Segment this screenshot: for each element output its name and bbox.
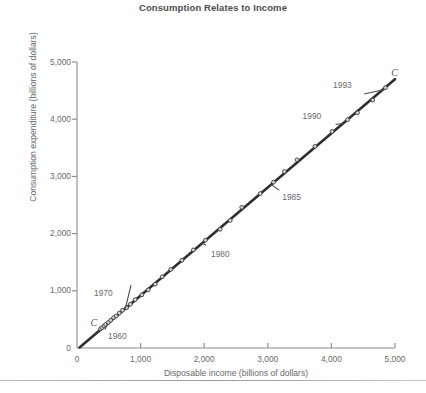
data-point-1973 [140, 293, 144, 297]
data-point-1980 [204, 238, 208, 242]
data-point-1985 [272, 180, 276, 184]
y-tick-label: 0 [66, 343, 71, 353]
y-tick-label: 3,000 [50, 171, 71, 181]
data-point-1977 [169, 267, 173, 271]
data-point-1978 [180, 258, 184, 262]
data-point-1976 [160, 275, 164, 279]
data-point-1972 [133, 298, 137, 302]
data-point-1987 [295, 158, 299, 162]
x-tick-label: 5,000 [375, 354, 415, 364]
data-point-1989 [330, 130, 334, 134]
page-bottom-rule [0, 380, 426, 381]
data-point-1982 [228, 219, 232, 223]
data-point-1969 [121, 308, 125, 312]
data-point-1984 [258, 192, 262, 196]
year-annotation-1960: 1960 [108, 331, 127, 341]
x-tick-label: 3,000 [248, 354, 288, 364]
x-tick-label: 4,000 [311, 354, 351, 364]
data-point-1975 [153, 282, 157, 286]
data-point-1967 [114, 314, 118, 318]
data-point-1981 [218, 227, 222, 231]
y-tick-label: 1,000 [50, 285, 71, 295]
y-tick-label: 4,000 [50, 114, 71, 124]
data-point-1991 [356, 111, 360, 115]
year-annotation-1993: 1993 [333, 80, 352, 90]
x-tick-label: 2,000 [184, 354, 224, 364]
y-tick-label: 5,000 [50, 57, 71, 67]
data-point-1990 [346, 118, 350, 122]
y-tick-label: 2,000 [50, 228, 71, 238]
year-annotation-1990: 1990 [303, 111, 322, 121]
consumption-function-label: C [391, 67, 398, 78]
data-point-1986 [282, 170, 286, 174]
y-axis-title: Consumption expenditure (billions of dol… [28, 0, 38, 242]
data-point-1993 [384, 86, 388, 90]
year-annotation-1970: 1970 [94, 288, 113, 298]
chart-page: Consumption Relates to Income Consumptio… [0, 0, 426, 393]
year-annotation-1985: 1985 [282, 192, 301, 202]
x-tick-label: 1,000 [121, 354, 161, 364]
year-annotation-1980: 1980 [211, 249, 230, 259]
data-point-1983 [240, 205, 244, 209]
x-tick-label: 0 [57, 354, 97, 364]
consumption-function-label: C [91, 317, 98, 328]
leader-line-1985 [271, 184, 279, 190]
data-point-1988 [313, 144, 317, 148]
data-point-1979 [191, 248, 195, 252]
data-point-1974 [146, 288, 150, 292]
data-point-1971 [129, 302, 133, 306]
x-axis-title: Disposable income (billions of dollars) [77, 368, 395, 378]
data-point-1992 [371, 98, 375, 102]
data-point-1968 [117, 311, 121, 315]
